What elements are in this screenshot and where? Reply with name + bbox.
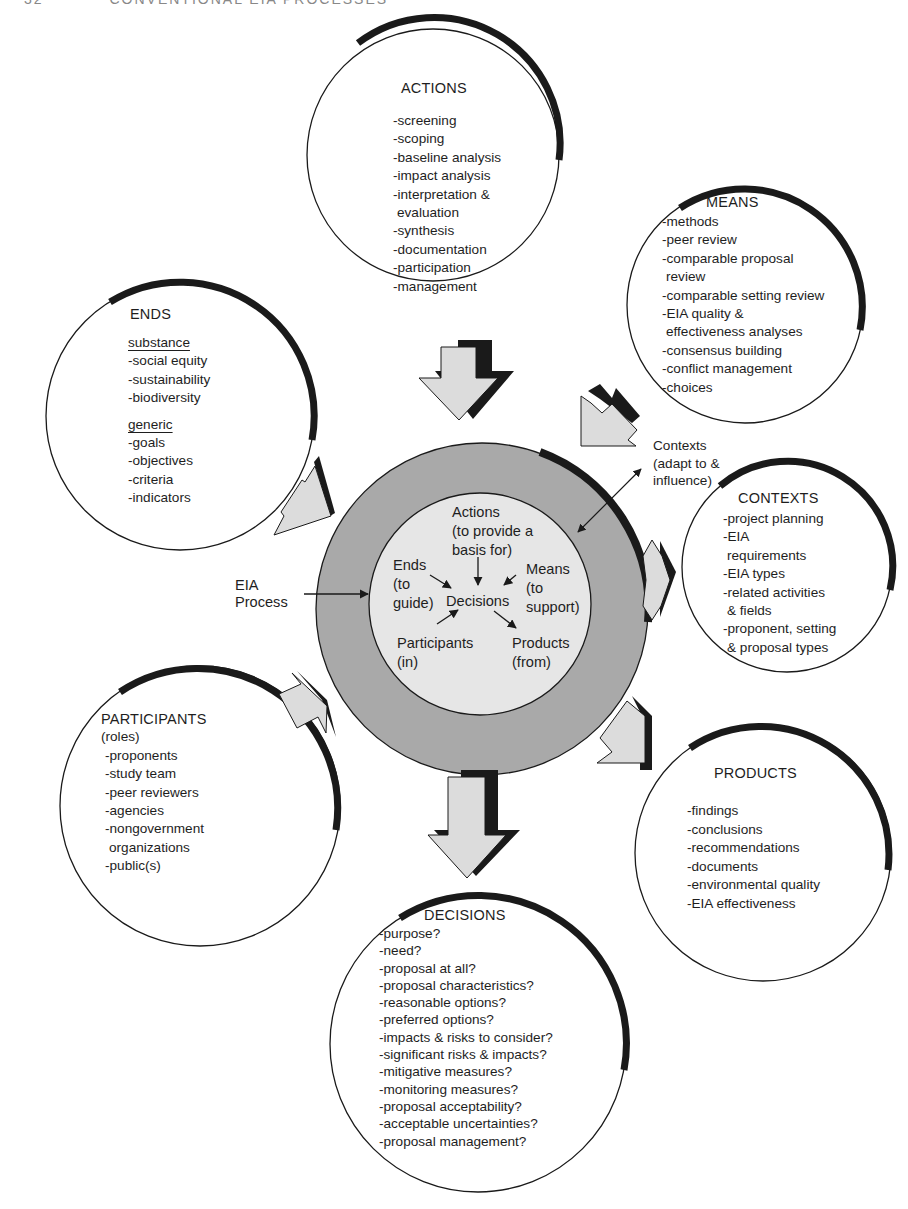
products-item: -EIA effectiveness [687, 895, 820, 914]
decisions-item: -proposal at all? [379, 960, 553, 977]
ends-item: -biodiversity [128, 389, 210, 407]
block-arrow-decisions [428, 770, 520, 878]
decisions-item: -significant risks & impacts? [379, 1046, 553, 1063]
means-item: -consensus building [662, 342, 824, 360]
actions-item: -impact analysis [393, 167, 501, 185]
decisions-item: -proposal characteristics? [379, 977, 553, 994]
means-item: -comparable setting review [662, 287, 824, 305]
contexts-list: -project planning -EIA requirements -EIA… [723, 510, 836, 657]
center-participants-line: (in) [397, 653, 473, 672]
center-actions-line: (to provide a [452, 522, 533, 541]
ends-item: -indicators [128, 489, 210, 507]
participants-item: -public(s) [101, 857, 207, 875]
actions-title: ACTIONS [401, 79, 467, 97]
decisions-item: -proposal management? [379, 1133, 553, 1150]
center-actions-label: Actions (to provide a basis for) [452, 503, 533, 560]
center-means-line: support) [526, 598, 580, 617]
block-arrow-means [581, 384, 640, 446]
ends-item: -goals [128, 434, 210, 452]
center-ends-label: Ends (to guide) [393, 556, 434, 613]
actions-item: -scoping [393, 130, 501, 148]
block-arrow-contexts [643, 540, 676, 620]
actions-list: -screening -scoping -baseline analysis -… [393, 112, 501, 296]
eia-process-line: EIA [235, 577, 288, 594]
means-item: -conflict management [662, 360, 824, 378]
center-products-label: Products (from) [512, 634, 570, 672]
decisions-title: DECISIONS [424, 906, 506, 924]
contexts-callout-line: Contexts [653, 437, 720, 455]
means-item: -choices [662, 379, 824, 397]
center-means-line: Means [526, 560, 580, 579]
means-item: -comparable proposal [662, 250, 824, 268]
center-means-line: (to [526, 579, 580, 598]
center-products-line: Products [512, 634, 570, 653]
eia-process-label: EIA Process [235, 577, 288, 611]
ends-item: -social equity [128, 352, 210, 370]
participants-item: -agencies [101, 802, 207, 820]
block-arrow-actions [419, 340, 514, 420]
center-actions-line: basis for) [452, 541, 533, 560]
ends-list: substance -social equity -sustainability… [128, 334, 210, 508]
ends-item: -criteria [128, 471, 210, 489]
actions-item: -management [393, 278, 501, 296]
decisions-list: -purpose? -need? -proposal at all? -prop… [379, 925, 553, 1150]
decisions-item: -preferred options? [379, 1011, 553, 1028]
participants-item: -nongovernment [101, 820, 207, 838]
products-item: -documents [687, 858, 820, 877]
center-participants-label: Participants (in) [397, 634, 473, 672]
products-item: -conclusions [687, 821, 820, 840]
contexts-item: & fields [723, 602, 836, 620]
ends-subhead-generic: generic [128, 416, 210, 434]
contexts-callout: Contexts (adapt to & influence) [653, 437, 720, 490]
contexts-item: -related activities [723, 584, 836, 602]
products-title: PRODUCTS [714, 764, 797, 782]
actions-item: -documentation [393, 241, 501, 259]
means-title: MEANS [706, 193, 759, 211]
decisions-item: -mitigative measures? [379, 1063, 553, 1080]
contexts-item: requirements [723, 547, 836, 565]
contexts-callout-line: (adapt to & [653, 455, 720, 473]
contexts-title: CONTEXTS [738, 489, 819, 507]
center-decisions-label: Decisions [446, 592, 509, 611]
center-ends-line: Ends [393, 556, 434, 575]
means-item: review [662, 268, 824, 286]
decisions-item: -monitoring measures? [379, 1081, 553, 1098]
contexts-item: -EIA types [723, 565, 836, 583]
center-actions-line: Actions [452, 503, 533, 522]
center-ends-line: guide) [393, 594, 434, 613]
means-item: -EIA quality & [662, 305, 824, 323]
means-item: -methods [662, 213, 824, 231]
products-item: -findings [687, 802, 820, 821]
decisions-item: -impacts & risks to consider? [379, 1029, 553, 1046]
means-item: effectiveness analyses [662, 323, 824, 341]
actions-item: -baseline analysis [393, 149, 501, 167]
actions-item: -interpretation & [393, 186, 501, 204]
contexts-item: -EIA [723, 528, 836, 546]
decisions-item: -purpose? [379, 925, 553, 942]
decisions-item: -need? [379, 942, 553, 959]
contexts-item: & proposal types [723, 639, 836, 657]
contexts-item: -project planning [723, 510, 836, 528]
eia-process-line: Process [235, 594, 288, 611]
contexts-item: -proponent, setting [723, 620, 836, 638]
ends-item: -objectives [128, 452, 210, 470]
center-participants-line: Participants [397, 634, 473, 653]
ends-subhead-substance: substance [128, 334, 210, 352]
means-list: -methods -peer review -comparable propos… [662, 213, 824, 397]
participants-block: PARTICIPANTS (roles) -proponents -study … [101, 710, 207, 876]
actions-block: ACTIONS [396, 79, 467, 101]
center-products-line: (from) [512, 653, 570, 672]
ends-title: ENDS [130, 305, 171, 323]
center-means-label: Means (to support) [526, 560, 580, 617]
actions-item: -screening [393, 112, 501, 130]
participants-item: -proponents [101, 747, 207, 765]
center-ends-line: (to [393, 575, 434, 594]
decisions-item: -acceptable uncertainties? [379, 1115, 553, 1132]
ends-item: -sustainability [128, 371, 210, 389]
participants-item: organizations [101, 839, 207, 857]
actions-item: -synthesis [393, 222, 501, 240]
actions-item: -participation [393, 259, 501, 277]
contexts-callout-line: influence) [653, 472, 720, 490]
products-item: -environmental quality [687, 876, 820, 895]
participants-title: PARTICIPANTS [101, 710, 207, 728]
